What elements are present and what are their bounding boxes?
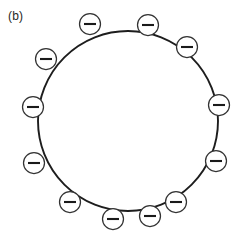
minus-charge-icon [24,153,45,174]
particle-outline [38,31,218,211]
minus-charge-icon [140,206,161,227]
minus-charge-icon [80,14,101,35]
minus-charge-icon [166,192,187,213]
minus-charge-icon [36,49,57,70]
minus-charge-icon [138,15,159,36]
minus-charge-icon [60,192,81,213]
particle-diagram [0,0,247,237]
minus-charge-icon [23,97,44,118]
figure-panel-b: (b) [0,0,247,237]
minus-charge-icon [103,209,124,230]
minus-charge-icon [206,151,227,172]
minus-charge-icon [177,37,198,58]
minus-charge-icon [209,95,230,116]
